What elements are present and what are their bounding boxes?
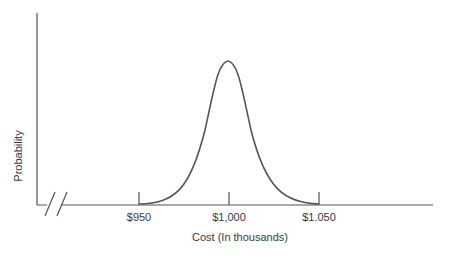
axis-break-icon (45, 192, 67, 216)
x-axis-label: Cost (In thousands) (192, 231, 288, 243)
y-axis-label: Probability (12, 130, 24, 181)
distribution-curve (139, 61, 319, 204)
x-tick-label-950: $950 (127, 211, 151, 223)
x-tick-label-1050: $1.050 (302, 211, 336, 223)
x-tick-label-1000: $1,000 (212, 211, 246, 223)
